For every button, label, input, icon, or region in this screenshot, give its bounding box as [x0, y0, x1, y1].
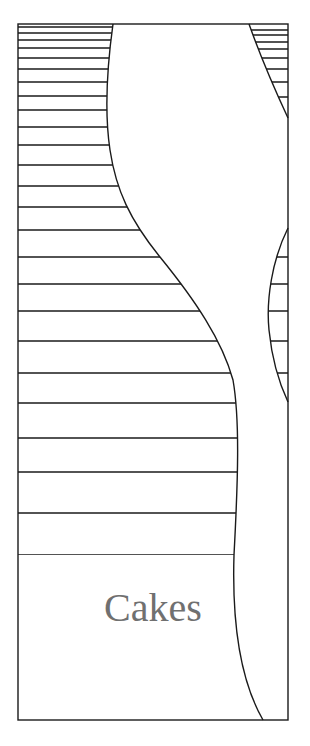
right-lens-curve — [268, 228, 288, 402]
cover-title: Cakes — [104, 586, 202, 630]
right-lens-stripes — [18, 257, 288, 373]
cover-illustration — [0, 0, 310, 746]
right-top-curve — [249, 24, 288, 118]
left-stripes — [18, 27, 288, 555]
